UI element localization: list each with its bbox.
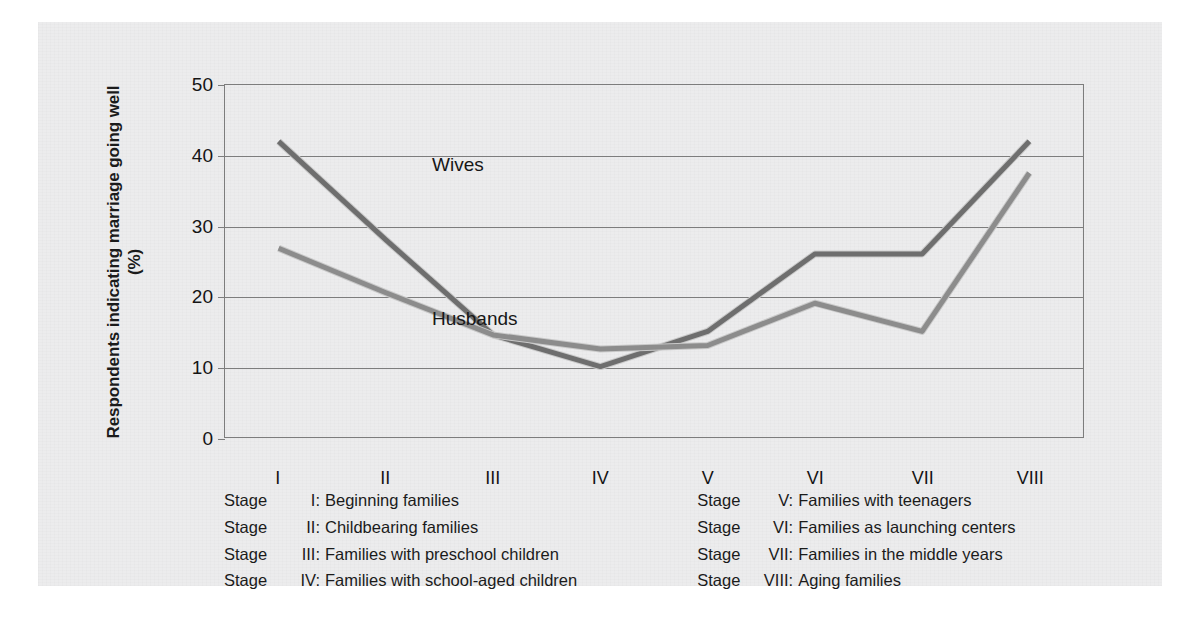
y-tick-mark [218,85,225,86]
legend-item: StageVI:Families as launching centers [697,517,1015,538]
x-tick-label: IV [592,468,609,489]
plot-area: 50403020100 [224,84,1084,438]
legend-stage-word: Stage [224,544,278,565]
x-tick-label: VI [807,468,824,489]
plot-wrapper: 50403020100 IIIIIIIVVVIVIIVIII Wives Hus… [224,62,1084,438]
y-tick-mark [218,156,225,157]
legend-stage-description: Beginning families [325,490,459,511]
legend-item: StageVII:Families in the middle years [697,544,1015,565]
legend-stage-word: Stage [697,570,751,591]
series-label-wives: Wives [432,154,484,176]
legend-item: StageIII:Families with preschool childre… [224,544,577,565]
y-tick-mark [218,297,225,298]
x-tick-label: III [485,468,500,489]
legend-item: StageII:Childbearing families [224,517,577,538]
figure-panel: Respondents indicating marriage going we… [38,22,1162,586]
series-lines [225,85,1083,437]
x-tick-label: VIII [1017,468,1044,489]
legend-stage-description: Families with preschool children [325,544,559,565]
legend-stage-roman: III: [278,544,320,565]
y-tick-mark [218,439,225,440]
legend-stage-word: Stage [697,544,751,565]
legend-stage-description: Families with school-aged children [325,570,577,591]
y-tick-label: 30 [192,216,213,238]
legend-stage-description: Families with teenagers [798,490,971,511]
x-tick-label: V [702,468,714,489]
x-tick-label: I [275,468,280,489]
legend-stage-roman: II: [278,517,320,538]
legend-stage-roman: IV: [278,570,320,591]
legend-stage-roman: I: [278,490,320,511]
legend-stage-description: Families in the middle years [798,544,1003,565]
series-line-husbands [279,173,1030,349]
legend-item: StageI:Beginning families [224,490,577,511]
legend-item: StageIV:Families with school-aged childr… [224,570,577,591]
y-tick-mark [218,227,225,228]
legend-stage-word: Stage [697,490,751,511]
legend-stage-roman: VI: [751,517,793,538]
legend-column-left: StageI:Beginning familiesStageII:Childbe… [224,490,577,591]
series-line-highlight-husbands [279,173,1030,349]
y-tick-mark [218,368,225,369]
x-axis-ticks: IIIIIIIVVVIVIIVIII [224,460,1084,490]
series-label-husbands: Husbands [432,308,518,330]
legend-stage-description: Childbearing families [325,517,478,538]
y-tick-label: 20 [192,286,213,308]
stage-legend: StageI:Beginning familiesStageII:Childbe… [224,490,1174,591]
y-tick-label: 10 [192,357,213,379]
legend-column-right: StageV:Families with teenagersStageVI:Fa… [697,490,1015,591]
y-tick-label: 50 [192,74,213,96]
y-tick-label: 40 [192,145,213,167]
legend-stage-word: Stage [224,570,278,591]
legend-stage-roman: VIII: [751,570,793,591]
x-tick-label: II [380,468,390,489]
legend-stage-word: Stage [224,517,278,538]
legend-item: StageVIII:Aging families [697,570,1015,591]
legend-stage-description: Aging families [798,570,901,591]
legend-stage-word: Stage [224,490,278,511]
legend-item: StageV:Families with teenagers [697,490,1015,511]
legend-stage-roman: V: [751,490,793,511]
legend-stage-roman: VII: [751,544,793,565]
y-tick-label: 0 [202,428,213,450]
legend-stage-description: Families as launching centers [798,517,1015,538]
legend-stage-word: Stage [697,517,751,538]
x-tick-label: VII [912,468,934,489]
y-axis-title: Respondents indicating marriage going we… [102,82,148,442]
